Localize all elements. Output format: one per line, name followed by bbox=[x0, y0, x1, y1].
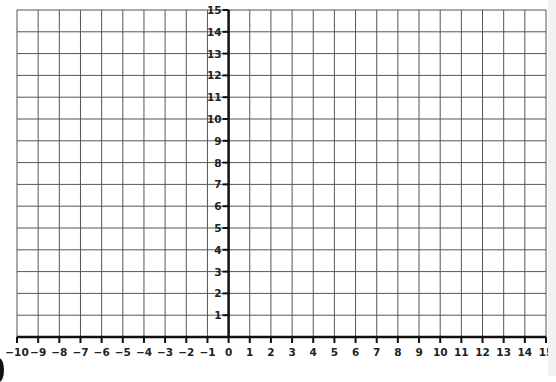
axes bbox=[17, 10, 546, 337]
x-tick-label: 9 bbox=[415, 346, 422, 358]
x-tick-label: −9 bbox=[30, 346, 46, 358]
x-tick-label: 6 bbox=[352, 346, 359, 358]
y-tick-label: 7 bbox=[214, 178, 221, 190]
x-tick-label: 11 bbox=[454, 346, 469, 358]
y-tick-label: 1 bbox=[214, 309, 221, 321]
y-tick-label: 12 bbox=[207, 69, 222, 81]
x-tick-label: 8 bbox=[394, 346, 401, 358]
x-tick-label: −3 bbox=[157, 346, 173, 358]
x-tick-label: 4 bbox=[310, 346, 317, 358]
x-tick-label: 10 bbox=[433, 346, 448, 358]
x-tick-label: 5 bbox=[331, 346, 338, 358]
y-tick-label: 9 bbox=[214, 135, 221, 147]
x-tick-label: 12 bbox=[475, 346, 490, 358]
x-tick-label: 0 bbox=[225, 346, 232, 358]
grid-lines bbox=[17, 10, 546, 337]
y-tick-label: 2 bbox=[214, 287, 221, 299]
x-tick-label: 13 bbox=[496, 346, 511, 358]
x-axis-ticks: −10−9−8−7−6−5−4−3−2−10123456789101112131… bbox=[5, 337, 553, 358]
page-edge-shadow bbox=[548, 0, 556, 376]
y-tick-label: 15 bbox=[207, 4, 222, 16]
x-tick-label: −2 bbox=[178, 346, 194, 358]
y-tick-label: 3 bbox=[214, 266, 221, 278]
x-tick-label: −1 bbox=[199, 346, 215, 358]
x-tick-label: −8 bbox=[51, 346, 67, 358]
x-tick-label: −7 bbox=[72, 346, 88, 358]
x-tick-label: 2 bbox=[267, 346, 274, 358]
x-tick-label: 3 bbox=[288, 346, 295, 358]
x-tick-label: −6 bbox=[94, 346, 110, 358]
y-tick-label: 10 bbox=[207, 113, 222, 125]
y-tick-label: 11 bbox=[207, 91, 222, 103]
x-tick-label: 7 bbox=[373, 346, 380, 358]
y-tick-label: 8 bbox=[214, 157, 221, 169]
x-tick-label: −5 bbox=[115, 346, 131, 358]
y-tick-label: 6 bbox=[214, 200, 221, 212]
x-tick-label: −10 bbox=[5, 346, 28, 358]
y-tick-label: 4 bbox=[214, 244, 221, 256]
x-tick-label: 14 bbox=[518, 346, 533, 358]
y-tick-label: 13 bbox=[207, 48, 222, 60]
x-tick-label: −4 bbox=[136, 346, 152, 358]
x-tick-label: 1 bbox=[246, 346, 253, 358]
y-tick-label: 5 bbox=[214, 222, 221, 234]
y-tick-label: 14 bbox=[207, 26, 222, 38]
